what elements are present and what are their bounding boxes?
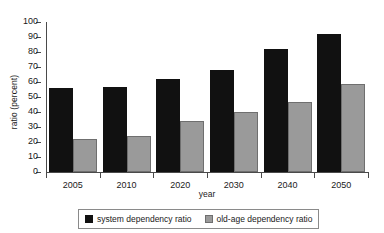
bar xyxy=(341,84,365,173)
chart-legend: system dependency ratioold-age dependenc… xyxy=(78,209,319,229)
bar-chart: ratio (percent) 0102030405060708090100 2… xyxy=(0,0,384,233)
bar xyxy=(156,79,180,172)
x-tick-mark xyxy=(100,173,101,178)
y-tick-label: 90 xyxy=(28,31,38,42)
y-tick-label: 80 xyxy=(28,46,38,57)
bar xyxy=(210,70,234,172)
x-tick-mark xyxy=(46,173,47,178)
bar xyxy=(180,121,204,172)
y-tick: 70 xyxy=(41,67,46,68)
x-tick-mark xyxy=(261,173,262,178)
y-tick: 90 xyxy=(41,37,46,38)
y-axis-title: ratio (percent) xyxy=(9,52,19,152)
bar xyxy=(127,136,151,172)
y-tick-label: 60 xyxy=(28,76,38,87)
y-tick: 10 xyxy=(41,157,46,158)
legend-label: system dependency ratio xyxy=(97,214,192,224)
y-tick: 80 xyxy=(41,52,46,53)
y-tick-label: 10 xyxy=(28,151,38,162)
bar xyxy=(234,112,258,172)
y-tick-label: 100 xyxy=(23,16,38,27)
legend-swatch-icon xyxy=(205,215,213,223)
legend-label: old-age dependency ratio xyxy=(217,214,313,224)
legend-swatch-icon xyxy=(85,215,93,223)
x-tick-mark xyxy=(207,173,208,178)
y-tick: 50 xyxy=(41,97,46,98)
y-tick: 100 xyxy=(41,22,46,23)
legend-item: system dependency ratio xyxy=(85,214,192,224)
bar xyxy=(49,88,73,172)
bar xyxy=(103,87,127,173)
legend-item: old-age dependency ratio xyxy=(205,214,313,224)
x-tick-mark xyxy=(368,173,369,178)
bar xyxy=(317,34,341,172)
y-axis-line xyxy=(46,22,47,173)
bar xyxy=(264,49,288,172)
y-tick: 40 xyxy=(41,112,46,113)
x-tick-mark xyxy=(153,173,154,178)
y-tick: 60 xyxy=(41,82,46,83)
y-tick: 20 xyxy=(41,142,46,143)
y-tick-label: 50 xyxy=(28,91,38,102)
y-tick-label: 70 xyxy=(28,61,38,72)
y-tick: 30 xyxy=(41,127,46,128)
y-tick-label: 0 xyxy=(33,166,38,177)
bar xyxy=(288,102,312,173)
y-tick-label: 30 xyxy=(28,121,38,132)
y-tick-label: 20 xyxy=(28,136,38,147)
plot-area: 0102030405060708090100 20052010202020302… xyxy=(46,22,368,172)
x-tick-mark xyxy=(314,173,315,178)
x-axis-title: year xyxy=(46,189,368,199)
y-tick-label: 40 xyxy=(28,106,38,117)
bar xyxy=(73,139,97,172)
